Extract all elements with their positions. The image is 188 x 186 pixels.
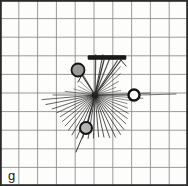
marker-lower xyxy=(80,122,92,134)
marker-right xyxy=(129,90,140,101)
panel-letter-label: g xyxy=(8,169,15,182)
horizontal-bar-marker xyxy=(88,56,126,60)
event-display-canvas xyxy=(0,0,188,186)
horizontal-bar-rect xyxy=(88,56,126,60)
figure-panel: g xyxy=(0,0,188,186)
marker-upper-left xyxy=(72,64,85,77)
